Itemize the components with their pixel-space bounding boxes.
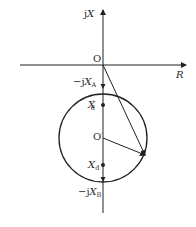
xa-tick-icon [101, 84, 106, 89]
xb-label: −jXB [78, 187, 101, 197]
xb-var: X [89, 186, 96, 197]
center-o: O [93, 131, 101, 142]
xd-prime-dot [101, 103, 105, 107]
xd-dot [101, 163, 105, 167]
xa-var: X [84, 76, 91, 87]
xa-sub: A [92, 81, 97, 89]
xb-sub: B [97, 191, 102, 199]
impedance-vector [103, 65, 145, 155]
xdp-sub: d [91, 104, 95, 112]
xb-prefix: −j [78, 186, 89, 197]
jx-axis-label: jX [84, 9, 94, 19]
origin-label: O [93, 54, 101, 64]
xd-sub: d [95, 164, 99, 172]
xa-prefix: −j [73, 76, 84, 87]
center-prime: ′ [101, 132, 103, 140]
r-axis-label: R [176, 70, 184, 80]
center-label: O′ [93, 132, 103, 142]
xd-label: Xd [88, 160, 99, 170]
xb-tick-icon [101, 177, 106, 182]
xd-prime-label: X′d [88, 100, 95, 110]
x-var: X [87, 8, 94, 19]
xa-label: −jXA [73, 77, 96, 87]
